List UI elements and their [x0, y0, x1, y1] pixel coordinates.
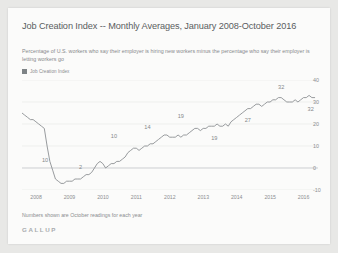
y-axis-tick-label: 10 [313, 143, 319, 149]
data-point-label: 27 [245, 117, 251, 123]
x-axis-tick-label: 2011 [131, 194, 142, 200]
legend-swatch-icon [22, 69, 27, 74]
x-axis-tick-label: 2014 [231, 194, 243, 200]
x-axis-labels: 200820092010201120122013201420152016 [22, 194, 318, 204]
x-axis-tick-label: 2016 [298, 194, 310, 200]
data-point-label: 19 [211, 135, 217, 141]
data-point-label: 14 [144, 124, 150, 130]
y-axis-tick-label: 30 [313, 99, 319, 105]
chart-footnote: Numbers shown are October readings for e… [22, 212, 142, 218]
data-point-label: 10 [42, 157, 48, 163]
x-axis-tick-label: 2012 [164, 194, 176, 200]
y-axis-tick-label: 40 [313, 77, 319, 83]
chart-plot-area: 10210141919273232 [22, 80, 318, 190]
data-point-label: 19 [178, 113, 184, 119]
legend-label: Job Creation Index [30, 69, 69, 74]
y-axis-tick-label: 20 [313, 121, 319, 127]
x-axis-tick-label: 2008 [30, 194, 42, 200]
y-axis-tick-label: -10 [313, 187, 321, 193]
y-axis-labels: 403020100-10 [310, 80, 332, 190]
x-axis-tick-label: 2010 [97, 194, 109, 200]
chart-legend: Job Creation Index [22, 69, 69, 74]
chart-subtitle: Percentage of U.S. workers who say their… [22, 47, 310, 63]
data-point-label: 2 [79, 164, 82, 170]
y-axis-tick-label: 0 [313, 165, 316, 171]
line-chart-svg [22, 80, 318, 190]
data-point-label: 32 [278, 84, 284, 90]
x-axis-tick-label: 2013 [197, 194, 209, 200]
chart-card: Job Creation Index -- Monthly Averages, … [8, 8, 330, 244]
screenshot-root: Job Creation Index -- Monthly Averages, … [0, 0, 338, 253]
x-axis-tick-label: 2009 [64, 194, 76, 200]
data-point-label: 10 [111, 133, 117, 139]
x-axis-tick-label: 2015 [264, 194, 276, 200]
page-title: Job Creation Index -- Monthly Averages, … [22, 20, 306, 33]
gallup-logo: GALLUP [22, 226, 57, 233]
